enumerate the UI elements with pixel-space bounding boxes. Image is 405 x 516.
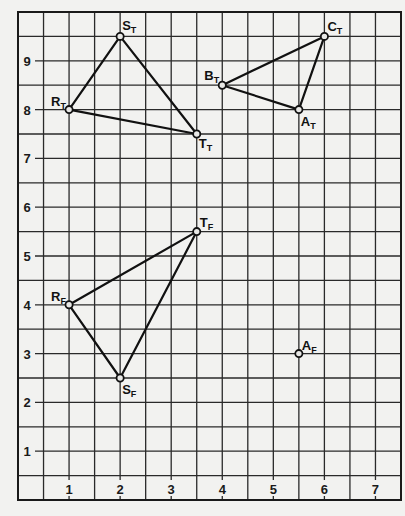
point-marker: [117, 33, 124, 40]
y-tick-label: 4: [23, 298, 31, 313]
y-tick-label: 1: [23, 444, 30, 459]
point-label: AT: [301, 114, 316, 131]
y-tick-label: 2: [23, 395, 30, 410]
y-tick-label: 7: [23, 151, 30, 166]
x-tick-label: 5: [270, 482, 277, 497]
y-axis-tick-labels: 123456789: [19, 52, 35, 460]
x-tick-label: 6: [321, 482, 328, 497]
point-marker: [219, 82, 226, 89]
point-label: ST: [122, 18, 137, 35]
y-tick-label: 9: [23, 54, 30, 69]
y-tick-label: 8: [23, 103, 30, 118]
x-tick-label: 7: [372, 482, 379, 497]
x-tick-label: 1: [65, 482, 72, 497]
y-tick-label: 3: [23, 347, 30, 362]
y-tick-label: 5: [23, 249, 30, 264]
point-label: CT: [327, 19, 342, 36]
point-marker: [65, 106, 72, 113]
point-marker: [65, 301, 72, 308]
point-label: BT: [204, 68, 219, 85]
point-label: RT: [51, 94, 66, 111]
x-tick-label: 3: [168, 482, 175, 497]
grid-plot: 1234567 123456789 RTSTTTBTCTATTFRFSFAF: [0, 0, 405, 516]
coordinate-grid-figure: 1234567 123456789 RTSTTTBTCTATTFRFSFAF: [0, 0, 405, 516]
x-tick-label: 4: [219, 482, 227, 497]
grid-lines: [18, 12, 401, 500]
point-marker: [295, 106, 302, 113]
point-label: SF: [122, 382, 137, 399]
point-label: AF: [302, 338, 317, 355]
x-tick-label: 2: [117, 482, 124, 497]
y-tick-label: 6: [23, 200, 30, 215]
point-label: TT: [199, 136, 213, 153]
point-label: RF: [51, 289, 66, 306]
x-axis-tick-labels: 1234567: [63, 480, 381, 497]
point-label: TF: [200, 215, 214, 232]
point-marker: [117, 374, 124, 381]
